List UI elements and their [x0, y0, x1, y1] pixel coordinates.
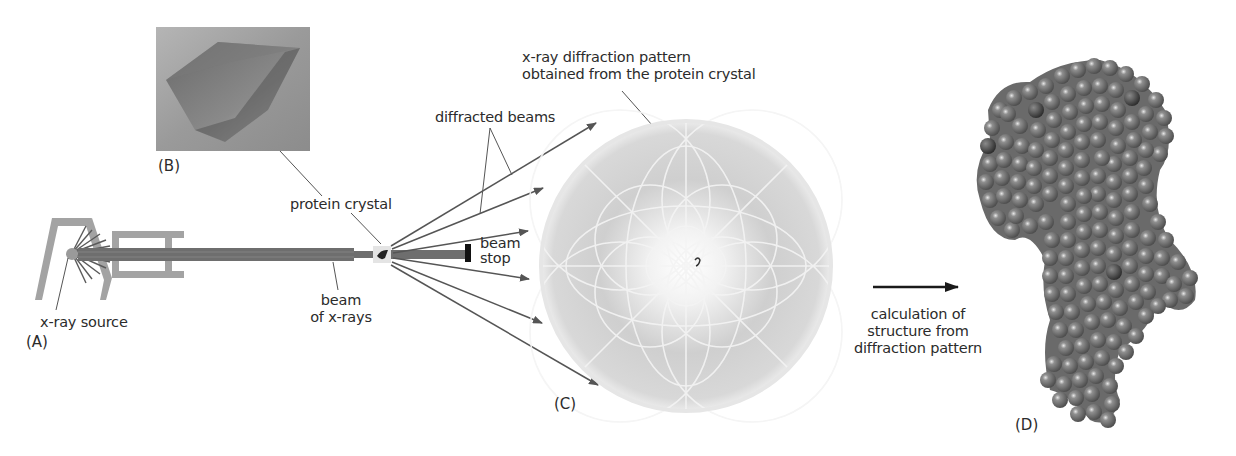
- xray-source-label: x-ray source: [40, 314, 128, 331]
- xray-beam: [78, 248, 354, 261]
- panel-label-d: (D): [1015, 416, 1038, 434]
- protein-structure-model: [977, 58, 1198, 428]
- diffracted-beams-label: diffracted beams: [435, 109, 555, 126]
- diffraction-pattern-label: x-ray diffraction pattern obtained from …: [522, 49, 756, 83]
- beam-label-line2: of x-rays: [296, 309, 386, 326]
- diffraction-pattern: [530, 110, 842, 422]
- panel-label-a: (A): [26, 333, 48, 351]
- photo-leader-line: [280, 151, 322, 196]
- panel-label-b: (B): [158, 157, 180, 175]
- protein-crystal-label: protein crystal: [290, 196, 392, 213]
- xray-crystallography-figure: (B) (A) (C) (D) x-ray source beam of x-r…: [0, 0, 1236, 456]
- beam-stop-icon: [465, 244, 471, 262]
- beam-label: beam: [306, 292, 376, 309]
- calculation-label: calculation of structure from diffractio…: [848, 306, 988, 357]
- crystal-photo: [156, 27, 310, 151]
- panel-label-c: (C): [554, 395, 576, 413]
- beam-stop-label: beam stop: [480, 236, 520, 266]
